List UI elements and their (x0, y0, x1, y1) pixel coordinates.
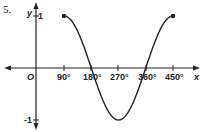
x-tick-270: 270° (110, 72, 129, 82)
y-axis-label: y (26, 8, 33, 18)
x-tick-450: 450° (165, 72, 184, 82)
sine-graph: y x O 1 -1 90° 180° 270° 360° 450° (0, 0, 203, 132)
x-axis-left-arrow-icon (4, 66, 11, 71)
y-axis-down-arrow-icon (34, 123, 39, 130)
endpoint-dot-right (171, 14, 175, 18)
y-axis-up-arrow-icon (34, 2, 39, 9)
y-tick-1: 1 (38, 11, 43, 21)
x-axis-right-arrow-icon (193, 66, 200, 71)
y-tick-neg1: -1 (24, 115, 32, 125)
origin-label: O (27, 72, 34, 82)
endpoint-dot-left (62, 14, 66, 18)
x-axis (4, 65, 200, 71)
y-axis (33, 2, 39, 130)
x-axis-label: x (193, 72, 200, 82)
x-tick-90: 90° (57, 72, 71, 82)
